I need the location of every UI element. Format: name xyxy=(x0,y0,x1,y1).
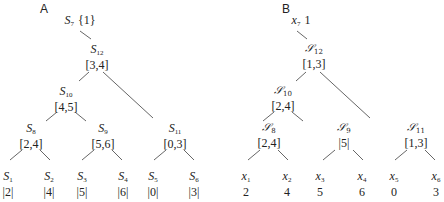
node-value: [0,3] xyxy=(164,138,187,150)
leaf-s1-a: S1 |2| xyxy=(3,170,14,198)
leaf-s5-a: S5 |0| xyxy=(148,170,159,198)
node-name: 𝒮9 xyxy=(337,122,350,137)
leaf-s4-a: S4 |6| xyxy=(118,170,129,198)
node-s11-b: 𝒮11 [1,3] xyxy=(405,122,428,149)
leaf-value: 2 xyxy=(242,186,251,198)
panel-label-a: A xyxy=(40,2,48,16)
node-value: [3,4] xyxy=(86,59,109,71)
node-s8-b: 𝒮8 [2,4] xyxy=(258,122,281,149)
panel-a-tree: A S7 {1} S12 [3,4] S10 [4,5] S8 [2,4] S9… xyxy=(0,0,222,202)
node-name: 𝒮10 xyxy=(272,85,295,100)
node-s9-a: S9 [5,6] xyxy=(92,122,115,150)
node-name: 𝒮12 xyxy=(303,43,326,58)
leaf-x4-b: x4 6 xyxy=(358,170,367,198)
leaf-x1-b: x1 2 xyxy=(242,170,251,198)
node-s12-a: S12 [3,4] xyxy=(86,43,109,71)
node-name: S11 xyxy=(164,122,187,138)
node-value: [2,4] xyxy=(272,100,295,112)
node-name: S12 xyxy=(86,43,109,59)
node-value: [5,6] xyxy=(92,138,115,150)
leaf-name: S2 xyxy=(44,170,55,186)
leaf-name: x3 xyxy=(316,170,325,186)
leaf-value: |2| xyxy=(3,186,14,198)
tree-edges-b xyxy=(222,0,444,202)
node-s12-b: 𝒮12 [1,3] xyxy=(303,43,326,70)
node-name: S7 xyxy=(64,13,74,27)
leaf-value: 3 xyxy=(432,186,441,198)
node-name: x7 xyxy=(292,13,301,27)
node-s9-b: 𝒮9 |5| xyxy=(337,122,350,149)
node-value: [2,4] xyxy=(258,137,281,149)
node-value: [4,5] xyxy=(55,101,78,113)
node-value: [2,4] xyxy=(20,138,43,150)
leaf-value: 0 xyxy=(390,186,399,198)
node-root-a: S7 {1} xyxy=(64,13,95,30)
panel-label-b: B xyxy=(282,2,290,16)
node-name: S9 xyxy=(92,122,115,138)
leaf-x3-b: x3 5 xyxy=(316,170,325,198)
leaf-name: x6 xyxy=(432,170,441,186)
node-s10-b: 𝒮10 [2,4] xyxy=(272,85,295,112)
leaf-name: x4 xyxy=(358,170,367,186)
leaf-value: |6| xyxy=(118,186,129,198)
leaf-name: x2 xyxy=(283,170,292,186)
leaf-value: 6 xyxy=(358,186,367,198)
leaf-s2-a: S2 |4| xyxy=(44,170,55,198)
leaf-name: S5 xyxy=(148,170,159,186)
leaf-name: x5 xyxy=(390,170,399,186)
node-value: 1 xyxy=(304,13,310,27)
leaf-value: |5| xyxy=(77,186,88,198)
leaf-value: |0| xyxy=(148,186,159,198)
node-name: S10 xyxy=(55,85,78,101)
node-value: [1,3] xyxy=(405,137,428,149)
leaf-value: |4| xyxy=(44,186,55,198)
node-root-b: x7 1 xyxy=(292,13,311,30)
node-value: {1} xyxy=(78,13,96,27)
leaf-x6-b: x6 3 xyxy=(432,170,441,198)
node-name: S8 xyxy=(20,122,43,138)
leaf-x2-b: x2 4 xyxy=(283,170,292,198)
node-s10-a: S10 [4,5] xyxy=(55,85,78,113)
leaf-s3-a: S3 |5| xyxy=(77,170,88,198)
node-s8-a: S8 [2,4] xyxy=(20,122,43,150)
node-name: 𝒮11 xyxy=(405,122,428,137)
leaf-value: 4 xyxy=(283,186,292,198)
leaf-name: S6 xyxy=(189,170,200,186)
panel-b-tree: B x7 1 𝒮12 [1,3] 𝒮10 [2,4] 𝒮8 [2,4] 𝒮9 |… xyxy=(222,0,444,202)
leaf-s6-a: S6 |3| xyxy=(189,170,200,198)
leaf-value: |3| xyxy=(189,186,200,198)
node-value: [1,3] xyxy=(303,58,326,70)
leaf-name: x1 xyxy=(242,170,251,186)
node-name: 𝒮8 xyxy=(258,122,281,137)
leaf-name: S4 xyxy=(118,170,129,186)
node-s11-a: S11 [0,3] xyxy=(164,122,187,150)
leaf-name: S1 xyxy=(3,170,14,186)
node-value: |5| xyxy=(337,137,350,149)
leaf-value: 5 xyxy=(316,186,325,198)
leaf-x5-b: x5 0 xyxy=(390,170,399,198)
leaf-name: S3 xyxy=(77,170,88,186)
